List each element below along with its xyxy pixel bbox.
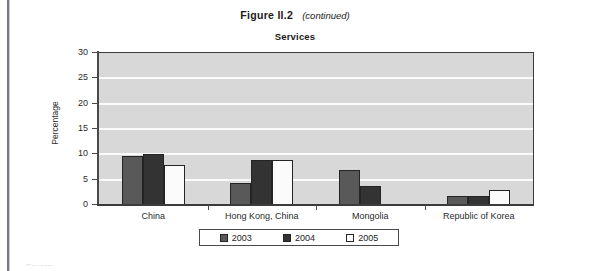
chart-legend: 200320042005 bbox=[199, 229, 399, 246]
y-axis-tick bbox=[92, 128, 97, 129]
plot-area bbox=[99, 52, 534, 205]
legend-label: 2004 bbox=[295, 233, 315, 243]
figure-caption: Figure II.2(continued) bbox=[0, 9, 590, 21]
y-axis-tick-label: 10 bbox=[78, 149, 88, 158]
y-axis-tick-label: 30 bbox=[78, 48, 88, 57]
bar-republic-of-korea-2005 bbox=[489, 190, 510, 205]
legend-label: 2005 bbox=[358, 233, 378, 243]
y-axis-tick bbox=[92, 103, 97, 104]
bar-hong-kong-china-2003 bbox=[230, 183, 251, 205]
bar-china-2005 bbox=[164, 165, 185, 205]
y-axis-tick-label: 20 bbox=[78, 99, 88, 108]
bar-china-2003 bbox=[122, 156, 143, 205]
y-axis-tick-label: 25 bbox=[78, 73, 88, 82]
legend-swatch-icon bbox=[283, 234, 291, 242]
legend-item-2005: 2005 bbox=[346, 233, 378, 243]
y-axis-tick bbox=[92, 179, 97, 180]
bar-mongolia-2003 bbox=[339, 170, 360, 205]
y-axis-tick bbox=[92, 153, 97, 154]
bar-hong-kong-china-2004 bbox=[251, 160, 272, 205]
chart-title: Services bbox=[0, 31, 590, 42]
figure-continued-note: (continued) bbox=[302, 10, 350, 21]
legend-item-2004: 2004 bbox=[283, 233, 315, 243]
bar-china-2004 bbox=[143, 154, 164, 205]
gridline bbox=[99, 128, 533, 130]
y-axis-tick bbox=[92, 204, 97, 205]
source-note: Source: bbox=[26, 262, 196, 266]
figure-label: Figure II.2 bbox=[240, 9, 293, 21]
x-axis-tick bbox=[425, 205, 426, 210]
legend-swatch-icon bbox=[220, 234, 228, 242]
legend-item-2003: 2003 bbox=[220, 233, 252, 243]
x-axis-category-label: Republic of Korea bbox=[425, 211, 534, 222]
gridline bbox=[99, 153, 533, 155]
bar-hong-kong-china-2005 bbox=[272, 160, 293, 205]
x-axis-category-label: China bbox=[99, 211, 208, 222]
bar-mongolia-2004 bbox=[360, 186, 381, 205]
x-axis-category-label: Hong Kong, China bbox=[208, 211, 317, 222]
x-axis-category-label: Mongolia bbox=[316, 211, 425, 222]
y-axis-tick-label: 0 bbox=[83, 200, 88, 209]
gridline bbox=[99, 103, 533, 105]
y-axis-tick bbox=[92, 77, 97, 78]
y-axis-line bbox=[97, 51, 99, 205]
y-axis-tick-label: 5 bbox=[83, 175, 88, 184]
y-axis-tick-label: 15 bbox=[78, 124, 88, 133]
x-axis-tick bbox=[316, 205, 317, 210]
legend-swatch-icon bbox=[346, 234, 354, 242]
y-axis-title: Percentage bbox=[50, 63, 60, 183]
x-axis-tick bbox=[208, 205, 209, 210]
gridline bbox=[99, 77, 533, 79]
legend-label: 2003 bbox=[232, 233, 252, 243]
y-axis-tick bbox=[92, 52, 97, 53]
